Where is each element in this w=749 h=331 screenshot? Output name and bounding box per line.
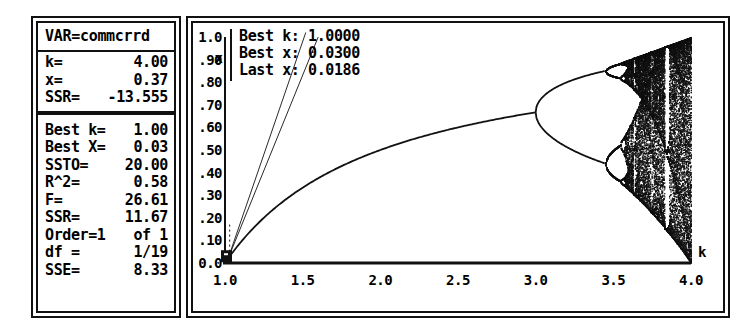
data-point: [633, 131, 634, 132]
data-point: [670, 79, 671, 80]
data-point: [673, 120, 674, 121]
data-point: [633, 59, 634, 60]
data-point: [650, 126, 651, 127]
data-point: [637, 151, 638, 152]
data-point: [639, 165, 640, 166]
data-point: [675, 223, 676, 224]
data-point: [629, 187, 630, 188]
data-point: [642, 123, 643, 124]
data-point: [676, 201, 677, 202]
data-point: [681, 217, 682, 218]
data-point: [650, 173, 651, 174]
data-point: [677, 140, 678, 141]
data-point: [689, 95, 690, 96]
data-point: [664, 221, 665, 222]
data-point: [691, 112, 692, 113]
data-point: [640, 162, 641, 163]
data-point: [672, 136, 673, 137]
data-point: [636, 136, 637, 137]
data-point: [684, 163, 685, 164]
data-point: [671, 145, 672, 146]
data-point: [683, 177, 684, 178]
data-point: [664, 223, 665, 224]
data-point: [660, 94, 661, 95]
data-point: [675, 66, 676, 67]
data-point: [664, 196, 665, 197]
data-point: [673, 111, 674, 112]
data-point: [675, 134, 676, 135]
data-point: [687, 76, 688, 77]
data-point: [629, 172, 630, 173]
data-point: [633, 63, 634, 64]
data-point: [675, 100, 676, 101]
data-point: [689, 147, 690, 148]
data-point: [642, 119, 643, 120]
data-point: [659, 102, 660, 103]
data-point: [639, 113, 640, 114]
data-point: [640, 175, 641, 176]
x-tick-1.0: 1.0: [213, 272, 237, 288]
data-point: [674, 138, 675, 139]
data-point: [683, 89, 684, 90]
data-point: [691, 51, 692, 52]
data-point: [689, 151, 690, 152]
data-point: [652, 202, 653, 203]
data-point: [684, 108, 685, 109]
data-point: [605, 165, 607, 167]
data-point: [662, 186, 663, 187]
data-point: [635, 115, 636, 116]
data-point: [677, 149, 678, 150]
data-point: [662, 124, 663, 125]
data-point: [649, 136, 650, 137]
data-point: [656, 197, 657, 198]
fixed-point-branch: [225, 112, 536, 263]
data-point: [629, 134, 630, 135]
data-point: [684, 133, 685, 134]
data-point: [677, 174, 678, 175]
data-point: [650, 103, 651, 104]
data-point: [629, 168, 630, 169]
data-point: [637, 149, 638, 150]
data-point: [687, 222, 688, 223]
data-point: [672, 125, 673, 126]
annotation-line-1: Best k: 1.0000: [239, 27, 360, 45]
data-point: [672, 133, 673, 134]
data-point: [647, 76, 648, 77]
data-point: [691, 242, 692, 243]
data-point: [670, 61, 671, 62]
data-point: [679, 153, 680, 154]
data-point: [663, 167, 664, 168]
data-point: [685, 130, 686, 131]
data-point: [683, 208, 684, 209]
data-point: [660, 152, 661, 153]
data-point: [685, 221, 686, 222]
data-point: [661, 98, 662, 99]
data-point: [650, 161, 651, 162]
data-point: [666, 153, 667, 154]
data-point: [645, 185, 646, 186]
data-point: [650, 84, 651, 85]
data-point: [656, 101, 657, 102]
data-point: [658, 190, 659, 191]
data-point: [626, 144, 627, 145]
data-point: [672, 144, 673, 145]
data-point: [675, 82, 676, 83]
data-point: [672, 122, 673, 123]
data-point: [683, 202, 684, 203]
data-point: [621, 142, 623, 144]
data-point: [681, 174, 682, 175]
data-point: [683, 147, 684, 148]
data-point: [676, 76, 677, 77]
data-point: [663, 214, 664, 215]
data-point: [649, 153, 650, 154]
data-point: [674, 70, 675, 71]
data-point: [675, 181, 676, 182]
data-point: [650, 145, 651, 146]
data-point: [652, 175, 653, 176]
data-point: [656, 134, 657, 135]
data-point: [629, 65, 630, 66]
data-point: [666, 152, 667, 153]
data-point: [657, 100, 658, 101]
data-point: [670, 168, 671, 169]
data-point: [633, 87, 634, 88]
